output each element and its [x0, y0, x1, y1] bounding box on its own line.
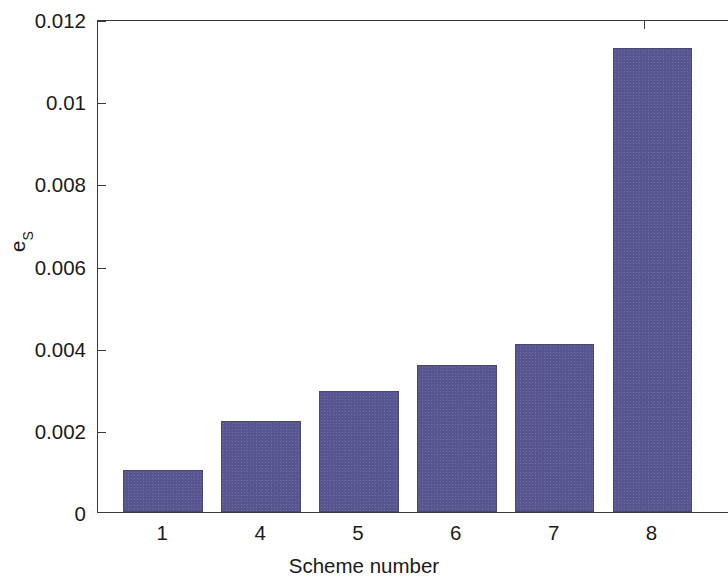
bar	[613, 48, 693, 512]
y-axis-tick-label: 0	[0, 502, 86, 526]
y-axis-tick	[98, 185, 106, 186]
y-axis-tick-label: 0.008	[0, 173, 86, 197]
y-axis-title-subscript: S	[20, 231, 36, 240]
y-axis-tick	[98, 350, 106, 351]
x-axis-tick-label: 8	[646, 521, 657, 545]
y-axis-tick	[98, 103, 106, 104]
bar	[319, 391, 399, 512]
y-axis-tick-label: 0.002	[0, 420, 86, 444]
bar	[417, 365, 497, 512]
bar	[123, 470, 203, 512]
y-axis-tick	[98, 21, 106, 22]
x-axis-tick-label: 7	[548, 521, 559, 545]
y-axis-tick-label: 0.01	[0, 91, 86, 115]
y-axis-tick-label: 0.012	[0, 9, 86, 33]
plot-area: 00.0020.0040.0060.0080.010.012	[97, 20, 728, 513]
bar	[221, 421, 301, 512]
y-axis-tick	[98, 432, 106, 433]
bar-chart-figure: eS 00.0020.0040.0060.0080.010.012 145678…	[0, 0, 728, 586]
x-axis-tick-label: 6	[450, 521, 461, 545]
x-axis-tick-label: 1	[157, 521, 168, 545]
y-axis-tick-label: 0.006	[0, 256, 86, 280]
x-axis-title: Scheme number	[0, 554, 728, 578]
y-axis-tick	[98, 268, 106, 269]
y-axis-tick-label: 0.004	[0, 338, 86, 362]
y-axis-title-base: e	[6, 241, 29, 252]
x-axis-top-tick	[644, 21, 645, 29]
y-axis-title: eS	[6, 231, 33, 252]
x-axis-tick-label: 4	[254, 521, 265, 545]
bar	[515, 344, 595, 512]
x-axis-tick-label: 5	[352, 521, 363, 545]
